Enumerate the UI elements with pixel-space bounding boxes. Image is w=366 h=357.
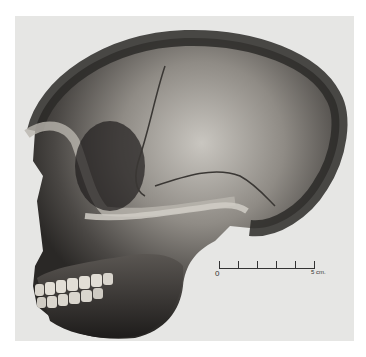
skull-photograph: 0 5 cm. bbox=[15, 16, 354, 341]
scale-start-label: 0 bbox=[215, 269, 219, 278]
scale-tick bbox=[276, 261, 277, 269]
scale-end-label: 5 cm. bbox=[311, 269, 326, 275]
scale-tick bbox=[219, 261, 220, 269]
skull-illustration bbox=[15, 16, 354, 341]
scale-tick bbox=[295, 261, 296, 269]
scale-bar-line bbox=[219, 268, 315, 269]
scale-tick bbox=[314, 261, 315, 269]
scale-tick bbox=[238, 261, 239, 269]
scale-tick bbox=[257, 261, 258, 269]
scale-bar: 0 5 cm. bbox=[217, 259, 317, 289]
